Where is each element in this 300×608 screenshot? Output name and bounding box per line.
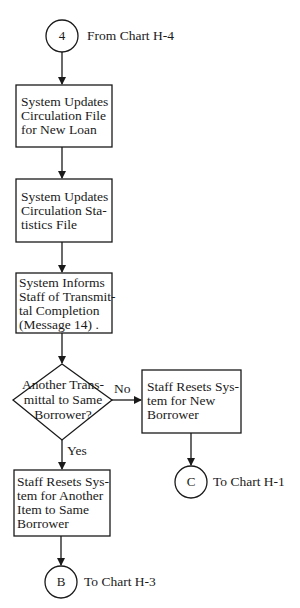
flowchart: 4 From Chart H-4 System Updates Circulat… — [0, 0, 300, 608]
decision-yes-label: Yes — [67, 443, 87, 458]
decision-no-label: No — [114, 381, 131, 396]
step-2-text: System Updates Circulation Sta- tistics … — [21, 190, 108, 232]
connector-c-symbol: C — [175, 466, 207, 498]
branch-no-text: Staff Resets Sys- tem for New Borrower — [147, 380, 239, 422]
step-3-text: System Informs Staff of Transmit- tal Co… — [19, 276, 116, 332]
connector-4-symbol: 4 — [46, 20, 78, 52]
branch-yes-text: Staff Resets Sys- tem for Another Item t… — [17, 475, 109, 531]
connector-c-label: To Chart H-1 — [213, 474, 285, 489]
decision-text: Another Trans- mittal to Same Borrower? — [14, 377, 112, 422]
connector-4-label: From Chart H-4 — [87, 28, 174, 43]
connector-b-symbol: B — [45, 566, 77, 598]
step-1-text: System Updates Circulation File for New … — [21, 95, 108, 137]
connector-b-label: To Chart H-3 — [84, 574, 156, 589]
